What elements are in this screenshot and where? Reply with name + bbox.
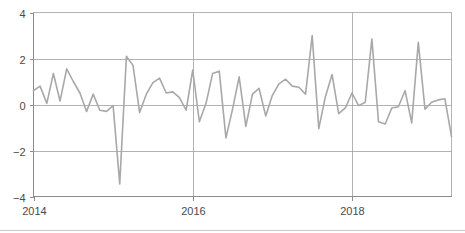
chart-container: 420−2−4 201420162018 — [0, 0, 465, 233]
x-tick-label: 2018 — [340, 205, 364, 217]
x-gridlines — [194, 13, 353, 197]
y-tick-label: 4 — [19, 8, 25, 20]
y-tick-label: 0 — [19, 100, 25, 112]
line-chart: 420−2−4 201420162018 — [0, 0, 465, 233]
y-tick-label: −4 — [13, 192, 26, 204]
y-tick-marks — [30, 14, 34, 198]
x-tick-label: 2016 — [181, 205, 205, 217]
footer-divider — [0, 230, 465, 231]
y-tick-label: −2 — [13, 146, 26, 158]
x-tick-labels: 201420162018 — [22, 205, 364, 217]
y-tick-label: 2 — [19, 54, 25, 66]
x-tick-label: 2014 — [22, 205, 46, 217]
data-series-line — [34, 36, 452, 184]
y-tick-labels: 420−2−4 — [13, 8, 26, 204]
x-tick-marks — [35, 197, 353, 201]
